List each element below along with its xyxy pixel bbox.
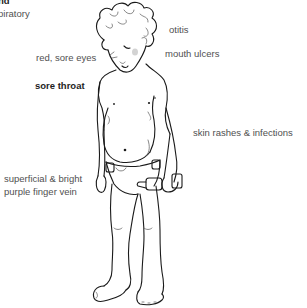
diaper-icon	[106, 160, 160, 195]
face-icon	[108, 37, 147, 72]
child-illustration	[0, 0, 307, 308]
arms-icon	[96, 82, 178, 192]
hair-icon	[97, 2, 157, 50]
cheek-blush	[132, 49, 138, 56]
torso-icon	[98, 64, 170, 163]
feet-icon	[93, 286, 163, 305]
legs-icon	[104, 184, 164, 294]
